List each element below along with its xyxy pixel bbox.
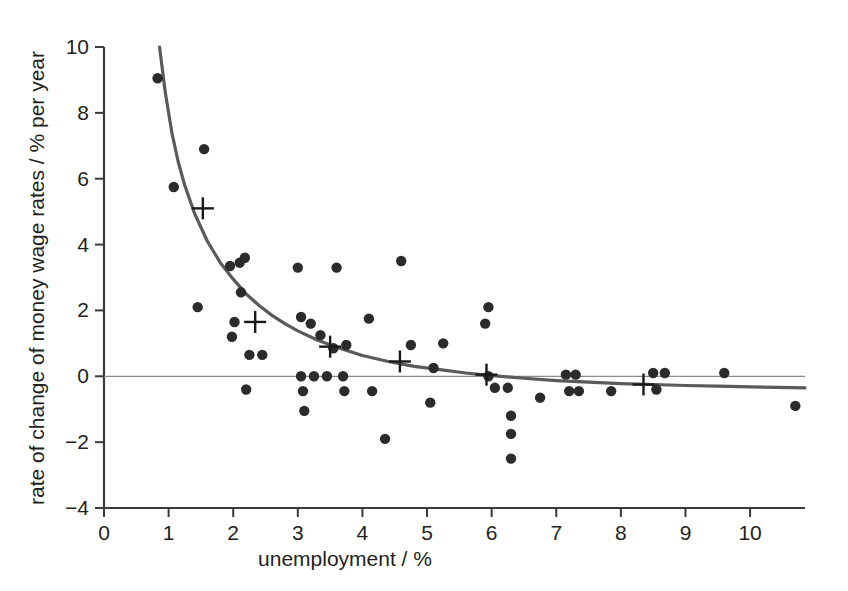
y-tick-label: −2: [65, 430, 89, 453]
data-point: [309, 371, 319, 381]
data-point: [364, 313, 374, 323]
data-point: [227, 332, 237, 342]
x-axis-title: unemployment / %: [258, 547, 432, 570]
data-point: [406, 340, 416, 350]
x-tick-label: 4: [357, 521, 369, 544]
data-point: [506, 429, 516, 439]
data-point: [192, 302, 202, 312]
data-point: [483, 371, 493, 381]
y-tick-label: 4: [77, 233, 89, 256]
data-point: [648, 368, 658, 378]
data-point: [483, 302, 493, 312]
x-tick-label: 5: [421, 521, 433, 544]
phillips-curve-figure: rate of change of money wage rates / % p…: [0, 0, 848, 591]
data-point: [293, 262, 303, 272]
data-point: [169, 182, 179, 192]
data-point: [561, 369, 571, 379]
fitted-curve: [160, 47, 805, 388]
y-tick-label: −4: [65, 496, 89, 519]
scatter-points: [152, 73, 800, 464]
data-point: [341, 340, 351, 350]
data-point: [380, 434, 390, 444]
y-axis-title: rate of change of money wage rates / % p…: [25, 51, 48, 505]
data-point: [244, 350, 254, 360]
data-point: [225, 261, 235, 271]
data-point: [257, 350, 267, 360]
y-tick-label: 8: [77, 101, 89, 124]
data-point: [480, 318, 490, 328]
y-tick-label: 10: [66, 35, 89, 58]
data-point: [428, 363, 438, 373]
data-point: [236, 287, 246, 297]
data-point: [339, 386, 349, 396]
data-point: [490, 383, 500, 393]
x-tick-label: 2: [227, 521, 239, 544]
x-tick-label: 8: [615, 521, 627, 544]
data-point: [651, 384, 661, 394]
data-point: [299, 406, 309, 416]
data-point: [719, 368, 729, 378]
x-tick-label: 9: [680, 521, 692, 544]
data-point: [574, 386, 584, 396]
x-tick-label: 10: [738, 521, 761, 544]
phillips-curve-path: [160, 47, 805, 388]
x-tick-label: 3: [292, 521, 304, 544]
x-tick-group: 012345678910: [98, 508, 762, 544]
y-tick-group: −4−20246810: [65, 35, 104, 519]
x-tick-label: 1: [163, 521, 175, 544]
data-point: [322, 371, 332, 381]
y-tick-label: 2: [77, 298, 89, 321]
data-point: [296, 371, 306, 381]
data-point: [229, 317, 239, 327]
data-point: [240, 253, 250, 263]
x-tick-label: 7: [550, 521, 562, 544]
data-point: [506, 453, 516, 463]
data-point: [306, 318, 316, 328]
data-point: [506, 411, 516, 421]
data-point: [660, 368, 670, 378]
data-point: [425, 397, 435, 407]
x-tick-label: 0: [98, 521, 110, 544]
data-point: [367, 386, 377, 396]
data-point: [503, 383, 513, 393]
data-point: [570, 369, 580, 379]
data-point: [396, 256, 406, 266]
data-point: [241, 384, 251, 394]
data-point: [298, 386, 308, 396]
data-point: [790, 401, 800, 411]
data-point: [535, 392, 545, 402]
chart-canvas: rate of change of money wage rates / % p…: [0, 0, 848, 591]
data-point: [338, 371, 348, 381]
data-point: [315, 330, 325, 340]
data-point: [152, 73, 162, 83]
data-point: [296, 312, 306, 322]
data-point: [331, 262, 341, 272]
data-point: [606, 386, 616, 396]
class-mean-markers: [192, 197, 655, 395]
data-point: [564, 386, 574, 396]
x-tick-label: 6: [486, 521, 498, 544]
y-tick-label: 6: [77, 167, 89, 190]
data-point: [199, 144, 209, 154]
data-point: [438, 338, 448, 348]
y-tick-label: 0: [77, 364, 89, 387]
